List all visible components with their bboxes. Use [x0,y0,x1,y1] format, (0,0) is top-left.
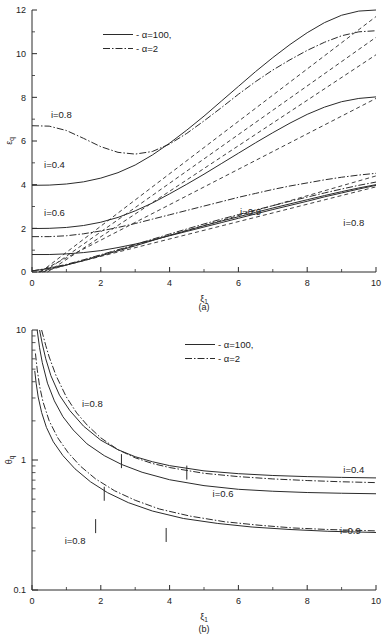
y-tick-label-b: 0.1 [13,585,26,595]
x-tick-label-b: 0 [29,596,34,606]
y-tick-label-a: 2 [21,224,26,234]
curve-annotation: i=0.6 [213,488,234,499]
curve-annotation: i=0.9 [240,206,261,217]
y-tick-label-b: 10 [16,325,26,335]
curve-annotation: i=0.4 [343,464,364,475]
legend-label-alpha2-b: - α=2 [218,353,240,364]
y-tick-label-a: 12 [16,5,26,15]
x-axis-label-b: ξ1 [200,612,208,623]
panel-label-a: (a) [199,302,210,312]
curve [47,55,376,272]
curve [41,17,376,272]
curve-annotation: i=0.8 [82,398,103,409]
x-tick-label-a: 4 [167,278,172,288]
curve [32,185,376,271]
legend-a: - α=100,- α=2 [103,29,171,54]
curve [32,31,376,154]
curve [44,37,376,272]
curve-annotation: i=0.8 [65,535,86,546]
panel-a: 0246810120246810- α=100,- α=2i=0.8i=0.4i… [0,0,387,320]
panel-label-b: (b) [199,624,210,634]
curve [39,187,376,272]
x-tick-label-a: 0 [29,278,34,288]
y-axis-label-a: εq [4,137,16,145]
x-tick-label-a: 6 [236,278,241,288]
x-tick-label-b: 6 [236,596,241,606]
y-tick-label-b: 1 [21,455,26,465]
curve-annotation: i=0.8 [343,217,364,228]
curves-a [32,10,376,272]
chart-a: 0246810120246810- α=100,- α=2i=0.8i=0.4i… [0,0,387,320]
y-tick-label-a: 4 [21,180,26,190]
curve-annotation: i=0.4 [44,159,65,170]
axes-b: 0.11100246810 [13,325,381,606]
curve [32,10,376,185]
curves-b [35,330,376,532]
curve [39,98,376,272]
axes-a: 0246810120246810 [16,5,381,288]
curve-annotation: i=0.9 [340,525,361,536]
x-tick-label-b: 4 [167,596,172,606]
x-tick-label-b: 10 [371,596,381,606]
curve [35,353,376,530]
x-tick-label-a: 2 [98,278,103,288]
x-tick-label-a: 10 [371,278,381,288]
panel-b: 0.11100246810- α=100,- α=2i=0.8i=0.6i=0.… [0,320,387,642]
y-tick-label-a: 8 [21,93,26,103]
curve-annotation: i=0.8 [51,109,72,120]
legend-label-alpha100-b: - α=100, [218,339,253,350]
x-tick-label-b: 8 [305,596,310,606]
x-tick-label-b: 2 [98,596,103,606]
y-tick-label-a: 0 [21,267,26,277]
chart-b: 0.11100246810- α=100,- α=2i=0.8i=0.6i=0.… [0,320,387,642]
y-tick-label-a: 10 [16,49,26,59]
curve-annotation: i=0.6 [44,207,65,218]
figure-container: 0246810120246810- α=100,- α=2i=0.8i=0.4i… [0,0,387,642]
x-tick-label-a: 8 [305,278,310,288]
legend-label-alpha2-a: - α=2 [136,43,158,54]
y-axis-label-b: θq [4,455,16,464]
legend-label-alpha100-a: - α=100, [136,29,171,40]
legend-b: - α=100,- α=2 [185,339,253,364]
annotations-a: i=0.8i=0.4i=0.6i=0.9i=0.8 [44,109,364,228]
curve [35,371,376,533]
curve-markers-b [96,454,187,542]
curve [37,330,376,494]
y-tick-label-a: 6 [21,136,26,146]
